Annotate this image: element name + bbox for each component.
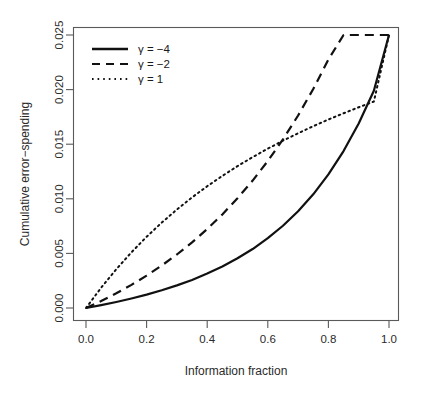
y-axis-title: Cumulative error−spending [18,102,32,246]
x-axis-title: Information fraction [185,364,288,378]
x-tick-label: 1.0 [381,333,397,345]
legend-label-gamma-minus4: γ = −4 [138,43,171,55]
x-tick-label: 0.4 [199,333,216,345]
y-tick-label: 0.005 [53,239,65,268]
y-tick-label: 0.025 [53,21,65,50]
x-tick-label: 0.8 [320,333,336,345]
legend-label-gamma-1: γ = 1 [138,73,163,85]
x-tick-label: 0.0 [78,333,94,345]
error-spending-chart: 0.025 0.020 0.015 0.010 0.005 0.000 Cumu… [0,0,423,393]
x-tick-label: 0.2 [139,333,155,345]
x-tick-label: 0.6 [260,333,276,345]
y-tick-label: 0.020 [53,75,65,104]
y-tick-label: 0.015 [53,130,65,159]
y-tick-label: 0.010 [53,184,65,213]
y-tick-label: 0.000 [53,294,65,323]
legend-label-gamma-minus2: γ = −2 [138,58,170,70]
